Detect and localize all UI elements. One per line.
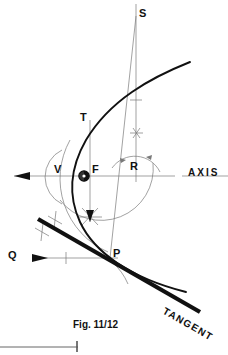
label-axis: AXIS	[188, 168, 219, 178]
line-s-to-p	[110, 16, 136, 258]
figure-caption: Fig. 11/12	[73, 320, 118, 330]
vertical-down-arrowhead	[86, 210, 94, 222]
q-right-arrowhead	[32, 254, 48, 262]
label-focus-f: F	[92, 164, 99, 175]
label-point-q: Q	[8, 250, 17, 261]
label-point-p: P	[113, 248, 120, 259]
tangent-line	[38, 219, 200, 312]
label-point-t: T	[80, 112, 87, 123]
label-point-r: R	[130, 161, 138, 172]
label-point-s: S	[139, 8, 146, 19]
focus-point-marker	[79, 171, 89, 181]
axis-left-arrowhead	[14, 172, 30, 180]
bottom-rule	[0, 341, 78, 352]
label-vertex-v: V	[54, 164, 61, 175]
tick-directrix-2	[130, 128, 143, 138]
construction-arc-vertex	[45, 150, 62, 204]
